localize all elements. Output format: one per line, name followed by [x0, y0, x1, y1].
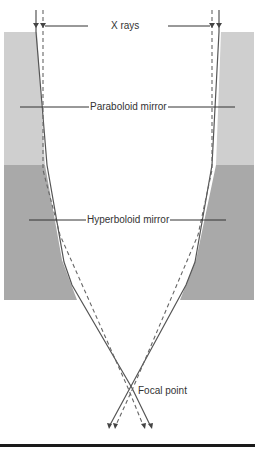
- hyperboloid-label: Hyperboloid mirror: [86, 214, 170, 225]
- bottom-arrowheads: [107, 423, 153, 429]
- bottom-rule: [0, 444, 255, 447]
- paraboloid-label: Paraboloid mirror: [89, 101, 168, 112]
- telescope-diagram: [0, 0, 265, 451]
- xrays-label: X rays: [110, 20, 140, 31]
- focal-point-label: Focal point: [137, 385, 188, 396]
- right-hyperboloid-mirror: [180, 165, 254, 300]
- right-paraboloid-mirror: [216, 32, 254, 165]
- left-hyperboloid-mirror: [4, 165, 77, 300]
- left-paraboloid-mirror: [4, 32, 45, 165]
